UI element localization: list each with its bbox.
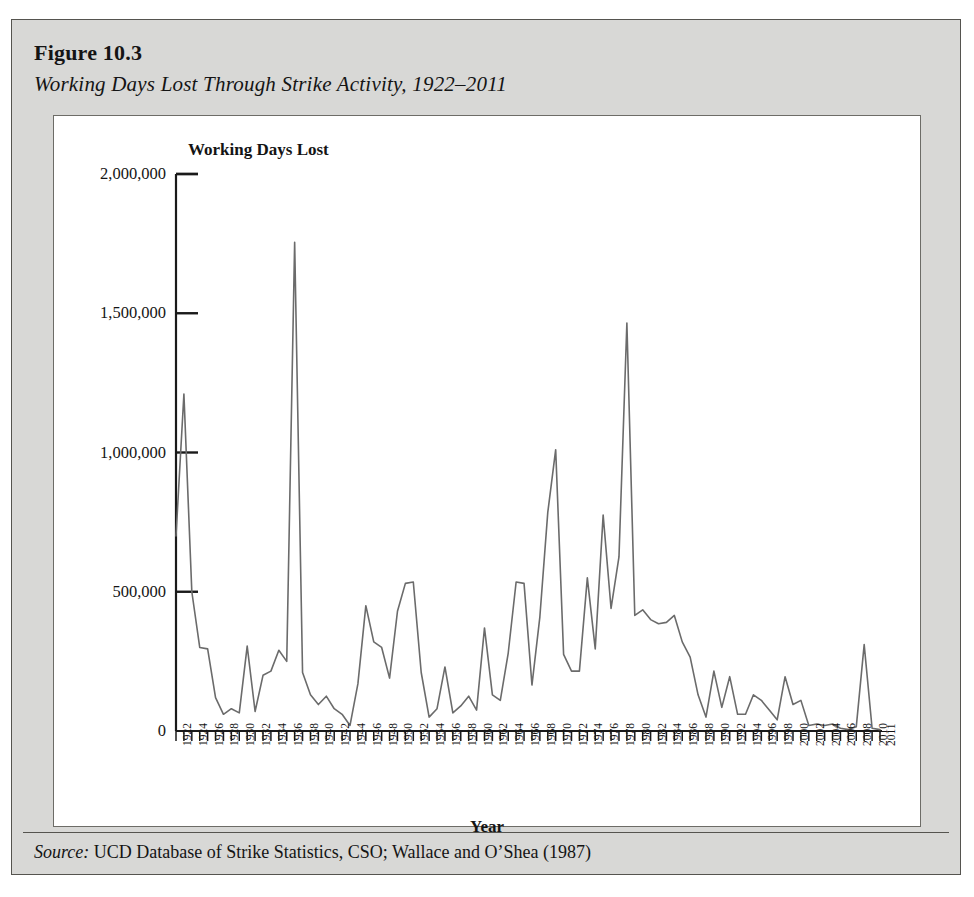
figure-number: Figure 10.3 (34, 40, 142, 66)
x-axis-tick-label: 1966 (529, 723, 541, 746)
x-axis-tick-label: 2004 (830, 723, 842, 746)
x-axis-tick-label: 1992 (735, 723, 747, 746)
source-divider (23, 832, 949, 833)
figure-subtitle: Working Days Lost Through Strike Activit… (34, 72, 507, 97)
x-axis-tick-label: 1936 (292, 723, 304, 746)
x-axis-tick-label: 1996 (766, 723, 778, 746)
source-line: Source: UCD Database of Strike Statistic… (34, 842, 591, 863)
x-axis-tick-label: 1942 (339, 723, 351, 746)
x-axis-tick-label: 1990 (719, 723, 731, 746)
x-axis-tick-label: 1984 (671, 723, 683, 746)
x-axis-tick-label: 1972 (577, 723, 589, 746)
x-axis-tick-label: 2002 (814, 723, 826, 746)
x-axis-tick-label: 1938 (308, 723, 320, 746)
x-axis-tick-label: 1922 (181, 723, 193, 746)
x-axis-tick-label: 1944 (355, 723, 367, 746)
x-axis-tick-label: 1958 (466, 723, 478, 746)
x-axis-tick-label: 1970 (561, 723, 573, 746)
x-axis-tick-label: 1948 (387, 723, 399, 746)
x-axis-tick-label: 2011 (885, 723, 897, 746)
x-axis-tick-label: 2000 (798, 723, 810, 746)
figure-card: Figure 10.3 Working Days Lost Through St… (11, 19, 961, 875)
x-axis-tick-label: 1954 (434, 723, 446, 746)
x-axis-tick-label: 1974 (592, 723, 604, 746)
y-axis-tick-label: 2,000,000 (100, 164, 166, 184)
x-axis-tick-label: 1956 (450, 723, 462, 746)
y-axis-title: Working Days Lost (188, 140, 329, 160)
x-axis-tick-label: 1950 (402, 723, 414, 746)
x-axis-tick-label: 1986 (687, 723, 699, 746)
x-axis-tick-label: 2006 (845, 723, 857, 746)
x-axis-tick-label: 1978 (624, 723, 636, 746)
x-axis-title: Year (54, 817, 920, 837)
y-axis-tick-label: 0 (158, 721, 166, 741)
chart-svg (54, 116, 922, 828)
x-axis-tick-label: 1940 (323, 723, 335, 746)
x-axis-tick-label: 1952 (418, 723, 430, 746)
x-axis-tick-label: 1988 (703, 723, 715, 746)
x-axis-tick-label: 2008 (861, 723, 873, 746)
source-text: UCD Database of Strike Statistics, CSO; … (89, 842, 591, 862)
x-axis-tick-label: 1976 (608, 723, 620, 746)
x-axis-tick-label: 1964 (513, 723, 525, 746)
x-axis-tick-label: 1962 (497, 723, 509, 746)
x-axis-tick-label: 1934 (276, 723, 288, 746)
source-label: Source: (34, 842, 89, 862)
x-axis-tick-label: 1946 (371, 723, 383, 746)
y-axis-tick-label: 1,000,000 (100, 443, 166, 463)
x-axis-tick-label: 1932 (260, 723, 272, 746)
y-axis-tick-label: 1,500,000 (100, 303, 166, 323)
y-axis-tick-label: 500,000 (112, 582, 166, 602)
x-axis-tick-label: 1980 (640, 723, 652, 746)
x-axis-tick-label: 1928 (228, 723, 240, 746)
x-axis-tick-label: 1968 (545, 723, 557, 746)
chart-container: Working Days Lost Year 0500,0001,000,000… (53, 115, 921, 827)
x-axis-tick-label: 1960 (482, 723, 494, 746)
x-axis-tick-label: 1998 (782, 723, 794, 746)
x-axis-tick-label: 1982 (656, 723, 668, 746)
x-axis-tick-label: 1924 (197, 723, 209, 746)
x-axis-tick-label: 1926 (213, 723, 225, 746)
x-axis-tick-label: 1994 (751, 723, 763, 746)
chart-plot-area: Working Days Lost Year 0500,0001,000,000… (54, 116, 920, 826)
x-axis-tick-label: 1930 (244, 723, 256, 746)
